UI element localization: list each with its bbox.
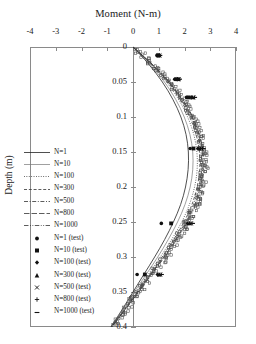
- scatter-point: [175, 85, 177, 87]
- legend-label: N=10: [52, 161, 70, 168]
- legend-label: N=1: [52, 149, 67, 156]
- legend-label: N=500 (test): [52, 284, 91, 291]
- legend-marker-swatch: [22, 294, 52, 305]
- test-marker-square: [192, 147, 196, 151]
- scatter-point: [179, 89, 181, 91]
- scatter-point: [170, 248, 172, 250]
- legend-label: N=800 (test): [52, 296, 91, 303]
- legend-marker-plus: [35, 298, 39, 302]
- legend-marker-square: [35, 249, 39, 253]
- legend-label: N=100 (test): [52, 259, 91, 266]
- scatter-point: [205, 181, 207, 183]
- legend-label: N=300: [52, 185, 74, 192]
- legend-line-swatch: [22, 220, 52, 231]
- legend-marker-circle: [35, 236, 39, 240]
- chart-legend: N=1N=10N=100N=300N=500N=800N=1000N=1 (te…: [22, 146, 94, 318]
- legend-label: N=800: [52, 210, 74, 217]
- test-marker-square: [143, 273, 147, 277]
- legend-line-swatch: [22, 159, 52, 170]
- legend-label: N=1000: [52, 222, 78, 229]
- scatter-point: [183, 232, 185, 234]
- scatter-point: [202, 134, 204, 136]
- test-marker-circle: [188, 147, 192, 151]
- test-marker-square: [169, 222, 173, 226]
- curve-n-500: [112, 47, 202, 327]
- legend-line-swatch: [22, 196, 52, 207]
- legend-marker-swatch: [22, 282, 52, 293]
- scatter-point: [131, 306, 133, 308]
- legend-line-swatch: [22, 147, 52, 158]
- scatter-point: [176, 244, 178, 246]
- scatter-point: [164, 261, 166, 263]
- scatter-point: [170, 254, 172, 256]
- scatter-point: [173, 245, 175, 247]
- legend-line-swatch: [22, 208, 52, 219]
- legend-item-line: N=300: [22, 183, 94, 195]
- legend-item-marker: N=1000 (test): [22, 306, 94, 318]
- test-marker-circle: [160, 222, 164, 226]
- scatter-point: [190, 108, 192, 110]
- legend-item-line: N=10: [22, 158, 94, 170]
- legend-item-marker: N=800 (test): [22, 294, 94, 306]
- scatter-point: [199, 126, 201, 128]
- curve-n-300: [111, 47, 200, 327]
- legend-marker-diamond: [35, 261, 39, 266]
- legend-label: N=100: [52, 173, 74, 180]
- scatter-point: [195, 209, 197, 211]
- curve-n-800: [112, 47, 203, 327]
- legend-item-marker: N=1 (test): [22, 232, 94, 244]
- scatter-point: [148, 57, 150, 59]
- curve-n-100: [111, 47, 197, 327]
- legend-label: N=300 (test): [52, 272, 91, 279]
- legend-marker-cross-x: [35, 285, 39, 289]
- legend-marker-swatch: [22, 307, 52, 318]
- scatter-point: [128, 307, 130, 309]
- legend-marker-swatch: [22, 233, 52, 244]
- test-marker-group: [135, 53, 205, 277]
- legend-item-marker: N=500 (test): [22, 281, 94, 293]
- scatter-point: [127, 310, 129, 312]
- legend-marker-swatch: [22, 257, 52, 268]
- legend-item-marker: N=100 (test): [22, 257, 94, 269]
- legend-marker-triangle: [35, 273, 40, 277]
- legend-label: N=1 (test): [52, 235, 83, 242]
- scatter-point: [165, 261, 167, 263]
- legend-marker-swatch: [22, 245, 52, 256]
- scatter-point: [134, 52, 136, 54]
- legend-marker-swatch: [22, 270, 52, 281]
- legend-line-swatch: [22, 171, 52, 182]
- legend-line-swatch: [22, 184, 52, 195]
- legend-item-marker: N=300 (test): [22, 269, 94, 281]
- test-marker-circle: [135, 273, 139, 277]
- legend-item-line: N=100: [22, 171, 94, 183]
- scatter-point: [121, 317, 123, 319]
- legend-label: N=10 (test): [52, 247, 87, 254]
- legend-item-line: N=800: [22, 207, 94, 219]
- scatter-point: [144, 288, 146, 290]
- legend-label: N=1000 (test): [52, 308, 94, 315]
- curve-group: [111, 47, 204, 327]
- chart-figure: Moment (N-m) Depth (m) -4-3-2-101234 00.…: [0, 0, 256, 344]
- legend-item-line: N=1000: [22, 220, 94, 232]
- legend-label: N=500: [52, 198, 74, 205]
- scatter-point: [198, 123, 200, 125]
- scatter-point: [144, 52, 146, 54]
- scatter-point: [132, 302, 134, 304]
- legend-item-line: N=1: [22, 146, 94, 158]
- legend-item-line: N=500: [22, 195, 94, 207]
- legend-item-marker: N=10 (test): [22, 244, 94, 256]
